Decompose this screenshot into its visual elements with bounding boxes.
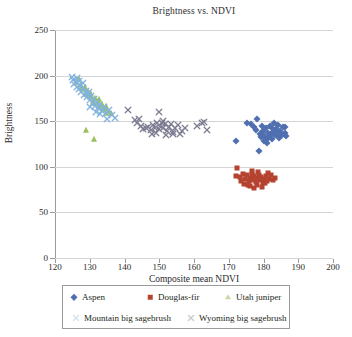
data-point (87, 103, 94, 110)
data-point (87, 94, 93, 100)
legend-entry[interactable]: Wyoming big sagebrush (186, 313, 286, 323)
x-tick-mark (229, 259, 230, 263)
data-point (264, 178, 269, 183)
data-point (275, 122, 282, 129)
data-point (124, 106, 131, 113)
data-point (270, 119, 277, 126)
data-point (263, 181, 268, 186)
data-point (99, 101, 105, 107)
legend-marker-square-icon (145, 292, 155, 302)
data-point (91, 136, 97, 142)
data-point (179, 128, 186, 135)
data-point (278, 131, 285, 138)
data-point (233, 173, 238, 178)
data-point (271, 132, 278, 139)
data-point (248, 175, 253, 180)
data-point (254, 183, 259, 188)
x-tick-label: 200 (313, 262, 352, 272)
data-point (265, 133, 272, 140)
data-point (71, 80, 78, 87)
data-point (261, 132, 268, 139)
data-point (72, 78, 79, 85)
chart-title: Brightness vs. NDVI (55, 6, 333, 16)
data-point (270, 178, 275, 183)
chart-figure: Brightness vs. NDVI Brightness Composite… (0, 0, 352, 337)
data-point (92, 102, 99, 109)
data-point (140, 125, 147, 132)
data-point (256, 130, 263, 137)
legend-entry[interactable]: Mountain big sagebrush (71, 313, 171, 323)
data-point (252, 126, 259, 133)
legend-label: Mountain big sagebrush (84, 313, 171, 323)
data-point (88, 93, 95, 100)
legend-entry[interactable]: Douglas-fir (145, 292, 200, 302)
data-point (95, 98, 101, 104)
data-point (88, 91, 94, 97)
data-point (149, 121, 156, 128)
data-point (269, 124, 276, 131)
data-point (83, 94, 90, 101)
data-point (148, 130, 155, 137)
data-point (138, 123, 145, 130)
data-point (85, 90, 92, 97)
legend-label: Utah juniper (236, 292, 281, 302)
data-point (203, 127, 210, 134)
data-point (160, 125, 167, 132)
x-tick-mark (90, 259, 91, 263)
data-point (266, 122, 273, 129)
data-point (253, 179, 258, 184)
data-point (244, 173, 249, 178)
data-point (81, 91, 88, 98)
data-point (242, 181, 247, 186)
data-point (265, 170, 270, 175)
chart-legend: AspenDouglas-firUtah juniper Mountain bi… (62, 285, 290, 329)
data-point (90, 97, 96, 103)
data-point (98, 107, 105, 114)
y-tick-label: 50 (0, 207, 48, 217)
data-point (106, 107, 113, 114)
data-point (82, 83, 88, 89)
data-point (268, 135, 275, 142)
data-point (157, 122, 164, 129)
data-point (258, 178, 263, 183)
data-point (272, 175, 277, 180)
y-tick-label: 200 (0, 71, 48, 81)
data-point (75, 85, 82, 92)
data-point (108, 109, 114, 115)
data-point (233, 137, 240, 144)
data-point (152, 130, 159, 137)
data-point (262, 177, 267, 182)
data-point (105, 107, 111, 113)
data-point (260, 180, 265, 185)
data-point (165, 124, 172, 131)
legend-entry[interactable]: Utah juniper (223, 292, 281, 302)
data-point (247, 184, 252, 189)
data-point (78, 81, 84, 87)
data-point (174, 122, 181, 129)
data-point (259, 175, 264, 180)
data-point (134, 119, 141, 126)
data-point (93, 98, 100, 105)
data-point (262, 125, 269, 132)
data-point (255, 147, 262, 154)
data-point (86, 89, 93, 96)
legend-entry[interactable]: Aspen (69, 292, 105, 302)
gridline-y (55, 30, 333, 31)
data-point (89, 99, 96, 106)
data-point (93, 108, 100, 115)
data-point (172, 125, 179, 132)
data-point (240, 172, 245, 177)
data-point (96, 101, 103, 108)
data-point (169, 128, 176, 135)
legend-marker-x-icon (71, 313, 81, 323)
legend-marker-triangle-icon (223, 292, 233, 302)
gridline-y (55, 76, 333, 77)
legend-label: Wyoming big sagebrush (199, 313, 286, 323)
data-point (163, 127, 170, 134)
data-point (96, 96, 102, 102)
data-point (255, 169, 260, 174)
x-tick-mark (194, 259, 195, 263)
data-point (103, 102, 109, 108)
legend-label: Aspen (82, 292, 105, 302)
data-point (147, 126, 154, 133)
